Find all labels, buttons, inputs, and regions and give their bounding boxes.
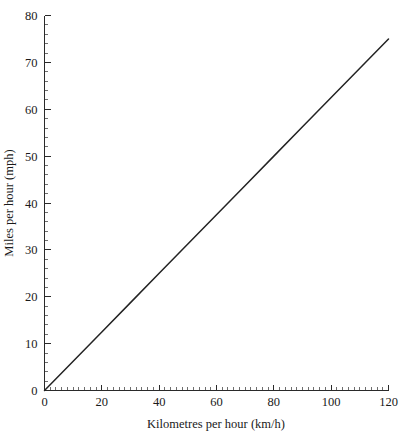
- y-tick-label: 20: [25, 290, 38, 304]
- x-tick-label: 120: [379, 395, 398, 409]
- y-tick-label: 50: [25, 150, 38, 164]
- y-tick-label: 60: [25, 103, 38, 117]
- chart-figure: 020406080100120 01020304050607080 Kilome…: [0, 0, 402, 433]
- x-tick-label: 40: [153, 395, 166, 409]
- y-tick-label: 70: [25, 56, 38, 70]
- conversion-line-chart: 020406080100120 01020304050607080 Kilome…: [0, 0, 402, 433]
- y-tick-label: 40: [25, 197, 38, 211]
- y-tick-label: 80: [25, 9, 38, 23]
- chart-background: [0, 0, 402, 433]
- y-axis-title: Miles per hour (mph): [2, 149, 16, 256]
- x-tick-label: 100: [322, 395, 341, 409]
- y-tick-label: 10: [25, 337, 38, 351]
- x-tick-label: 60: [210, 395, 223, 409]
- x-tick-label: 80: [268, 395, 281, 409]
- y-tick-label: 0: [31, 384, 37, 398]
- y-tick-label: 30: [25, 243, 38, 257]
- x-tick-label: 0: [41, 395, 47, 409]
- x-axis-title: Kilometres per hour (km/h): [147, 417, 285, 431]
- y-axis-tick-labels: 01020304050607080: [25, 9, 38, 398]
- x-tick-label: 20: [96, 395, 109, 409]
